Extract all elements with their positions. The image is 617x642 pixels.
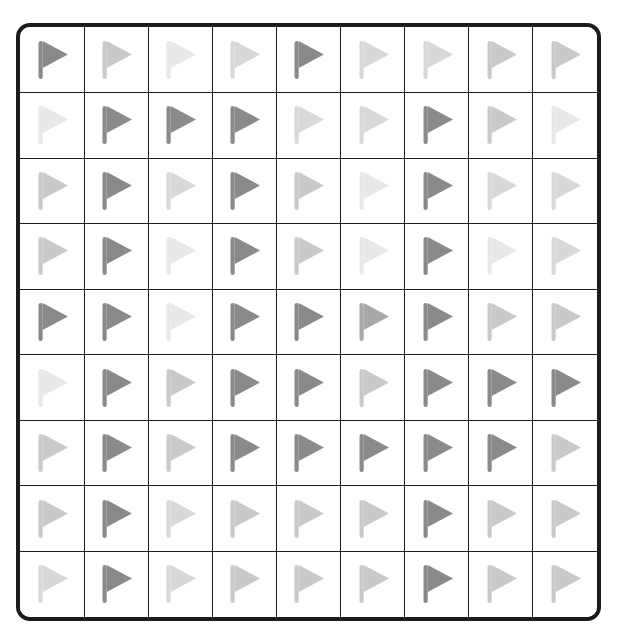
flag-cell[interactable] bbox=[341, 486, 405, 552]
flag-cell[interactable] bbox=[148, 551, 212, 617]
flag-cell[interactable] bbox=[405, 224, 469, 290]
flag-cell[interactable] bbox=[84, 93, 148, 159]
flag-pennant bbox=[171, 434, 196, 461]
flag-cell[interactable] bbox=[276, 224, 340, 290]
flag-cell[interactable] bbox=[20, 27, 84, 93]
flag-cell[interactable] bbox=[20, 93, 84, 159]
flag-cell[interactable] bbox=[84, 289, 148, 355]
flag-cell[interactable] bbox=[469, 355, 533, 421]
flag-cell[interactable] bbox=[84, 551, 148, 617]
flag-cell[interactable] bbox=[212, 158, 276, 224]
flag-cell[interactable] bbox=[405, 420, 469, 486]
flag-pennant bbox=[363, 172, 388, 199]
flag-cell[interactable] bbox=[84, 420, 148, 486]
flag-cell[interactable] bbox=[20, 224, 84, 290]
flag-cell[interactable] bbox=[212, 486, 276, 552]
flag-pennant bbox=[363, 41, 388, 68]
flag-cell[interactable] bbox=[469, 27, 533, 93]
flag-cell[interactable] bbox=[469, 289, 533, 355]
flag-cell[interactable] bbox=[212, 420, 276, 486]
flag-cell[interactable] bbox=[533, 93, 597, 159]
flag-cell[interactable] bbox=[276, 289, 340, 355]
flag-cell[interactable] bbox=[341, 224, 405, 290]
flag-cell[interactable] bbox=[148, 224, 212, 290]
flag-cell[interactable] bbox=[276, 93, 340, 159]
flag-cell[interactable] bbox=[341, 27, 405, 93]
flag-cell[interactable] bbox=[276, 551, 340, 617]
flag-cell[interactable] bbox=[341, 355, 405, 421]
flag-cell[interactable] bbox=[276, 355, 340, 421]
flag-icon bbox=[96, 431, 136, 475]
flag-cell[interactable] bbox=[148, 93, 212, 159]
flag-pennant bbox=[556, 434, 581, 461]
flag-cell[interactable] bbox=[276, 27, 340, 93]
flag-pennant bbox=[107, 369, 132, 396]
flag-pennant bbox=[492, 500, 517, 527]
flag-grid-row bbox=[20, 27, 597, 93]
flag-cell[interactable] bbox=[84, 486, 148, 552]
flag-cell[interactable] bbox=[212, 551, 276, 617]
flag-cell[interactable] bbox=[341, 420, 405, 486]
flag-cell[interactable] bbox=[20, 289, 84, 355]
flag-cell[interactable] bbox=[20, 158, 84, 224]
flag-cell[interactable] bbox=[469, 224, 533, 290]
flag-cell[interactable] bbox=[533, 27, 597, 93]
flag-cell[interactable] bbox=[405, 158, 469, 224]
flag-cell[interactable] bbox=[405, 551, 469, 617]
flag-cell[interactable] bbox=[469, 420, 533, 486]
flag-icon bbox=[96, 38, 136, 82]
flag-cell[interactable] bbox=[276, 486, 340, 552]
flag-grid-panel bbox=[16, 23, 601, 621]
flag-cell[interactable] bbox=[405, 289, 469, 355]
flag-cell[interactable] bbox=[20, 420, 84, 486]
flag-cell[interactable] bbox=[20, 486, 84, 552]
flag-cell[interactable] bbox=[276, 158, 340, 224]
flag-cell[interactable] bbox=[84, 355, 148, 421]
flag-icon bbox=[417, 169, 457, 213]
flag-cell[interactable] bbox=[148, 420, 212, 486]
flag-cell[interactable] bbox=[84, 27, 148, 93]
flag-pole bbox=[38, 434, 42, 472]
flag-cell[interactable] bbox=[148, 486, 212, 552]
flag-cell[interactable] bbox=[405, 355, 469, 421]
flag-cell[interactable] bbox=[212, 289, 276, 355]
flag-cell[interactable] bbox=[84, 158, 148, 224]
flag-pole bbox=[295, 565, 299, 603]
flag-cell[interactable] bbox=[405, 486, 469, 552]
flag-cell[interactable] bbox=[341, 158, 405, 224]
flag-cell[interactable] bbox=[533, 420, 597, 486]
flag-cell[interactable] bbox=[533, 551, 597, 617]
flag-cell[interactable] bbox=[20, 355, 84, 421]
flag-cell[interactable] bbox=[469, 486, 533, 552]
flag-cell[interactable] bbox=[148, 27, 212, 93]
flag-icon bbox=[160, 103, 200, 147]
flag-cell[interactable] bbox=[533, 158, 597, 224]
flag-icon bbox=[353, 300, 393, 344]
flag-cell[interactable] bbox=[148, 355, 212, 421]
flag-cell[interactable] bbox=[148, 158, 212, 224]
flag-cell[interactable] bbox=[469, 551, 533, 617]
flag-cell[interactable] bbox=[533, 224, 597, 290]
flag-cell[interactable] bbox=[212, 224, 276, 290]
flag-cell[interactable] bbox=[405, 27, 469, 93]
flag-cell[interactable] bbox=[20, 551, 84, 617]
flag-cell[interactable] bbox=[533, 355, 597, 421]
flag-cell[interactable] bbox=[212, 27, 276, 93]
flag-cell[interactable] bbox=[469, 158, 533, 224]
flag-cell[interactable] bbox=[469, 93, 533, 159]
flag-cell[interactable] bbox=[533, 486, 597, 552]
flag-icon bbox=[481, 300, 521, 344]
flag-cell[interactable] bbox=[148, 289, 212, 355]
flag-cell[interactable] bbox=[341, 93, 405, 159]
flag-icon bbox=[224, 366, 264, 410]
flag-cell[interactable] bbox=[84, 224, 148, 290]
flag-cell[interactable] bbox=[533, 289, 597, 355]
flag-cell[interactable] bbox=[212, 355, 276, 421]
flag-cell[interactable] bbox=[405, 93, 469, 159]
flag-cell[interactable] bbox=[212, 93, 276, 159]
flag-pennant bbox=[492, 41, 517, 68]
flag-cell[interactable] bbox=[341, 289, 405, 355]
flag-pennant bbox=[171, 41, 196, 68]
flag-cell[interactable] bbox=[341, 551, 405, 617]
flag-cell[interactable] bbox=[276, 420, 340, 486]
